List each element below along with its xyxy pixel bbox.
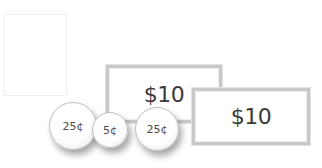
bill-value: $10	[231, 104, 272, 129]
bill-value: $10	[144, 82, 185, 107]
coin-value: 5¢	[103, 124, 117, 137]
coin-value: 25¢	[147, 123, 168, 136]
nickel-coin[interactable]: 5¢	[92, 112, 128, 148]
quarter-coin[interactable]: 25¢	[49, 102, 97, 150]
drop-area[interactable]	[3, 14, 67, 96]
quarter-coin[interactable]: 25¢	[135, 107, 179, 151]
ten-dollar-bill[interactable]: $10	[192, 88, 310, 145]
coin-value: 25¢	[63, 120, 84, 133]
